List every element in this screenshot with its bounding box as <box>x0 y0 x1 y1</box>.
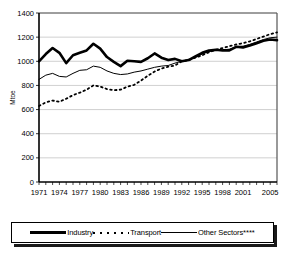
y-tick-label: 0 <box>30 178 34 187</box>
legend-label-other-sectors: Other Sectors <box>198 229 243 237</box>
chart-legend: Industry Transport Other Sectors**** <box>11 222 274 243</box>
x-tick-label: 1983 <box>112 188 129 197</box>
x-tick-label: 1998 <box>214 188 231 197</box>
x-tick-label: 1974 <box>51 188 68 197</box>
x-tick-label: 1995 <box>194 188 211 197</box>
legend-label-transport: Transport <box>130 229 161 237</box>
line-chart: 0200400600800100012001400197119741977198… <box>0 0 291 215</box>
x-tick-label: 1986 <box>133 188 150 197</box>
legend-label-industry: Industry <box>67 229 93 237</box>
x-tick-label: 2001 <box>235 188 252 197</box>
x-tick-label: 2005 <box>262 188 279 197</box>
legend-footnote-marker: **** <box>243 229 255 237</box>
x-tick-label: 1989 <box>153 188 170 197</box>
x-tick-label: 1992 <box>173 188 190 197</box>
legend-shadow-right <box>274 225 277 247</box>
legend-line-other-sectors-icon <box>161 229 197 237</box>
y-tick-label: 400 <box>21 129 34 138</box>
legend-shadow-bottom <box>14 244 277 247</box>
y-tick-label: 600 <box>21 105 34 114</box>
chart-svg: 0200400600800100012001400197119741977198… <box>0 0 291 215</box>
legend-item-other-sectors: Other Sectors**** <box>161 229 255 237</box>
series-line-transport <box>39 32 277 106</box>
y-tick-label: 1400 <box>17 9 34 18</box>
x-tick-label: 1977 <box>71 188 88 197</box>
y-axis-label: Mtoe <box>9 78 16 118</box>
legend-line-transport-icon <box>93 229 129 237</box>
x-tick-label: 1971 <box>31 188 48 197</box>
legend-line-industry-icon <box>30 229 66 237</box>
legend-item-industry: Industry <box>30 229 93 237</box>
chart-screenshot: 0200400600800100012001400197119741977198… <box>0 0 291 255</box>
y-tick-label: 200 <box>21 153 34 162</box>
x-tick-label: 1980 <box>92 188 109 197</box>
y-tick-label: 1200 <box>17 33 34 42</box>
y-tick-label: 1000 <box>17 57 34 66</box>
y-tick-label: 800 <box>21 81 34 90</box>
legend-item-transport: Transport <box>93 229 161 237</box>
